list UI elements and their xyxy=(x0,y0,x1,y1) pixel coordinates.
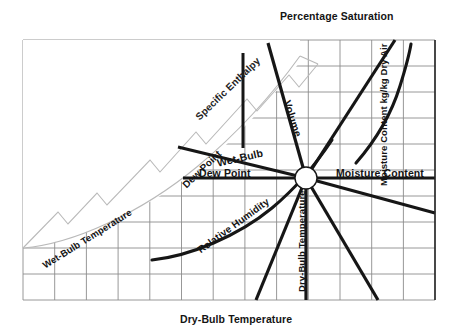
label-dry-bulb-temperature-vertical: Dry-Bulb Temperature xyxy=(297,190,307,292)
psychrometric-chart-figure: Percentage Saturation Moisture Content k… xyxy=(0,0,474,332)
chart-canvas xyxy=(0,0,474,332)
label-dry-bulb-axis: Dry-Bulb Temperature xyxy=(180,314,292,325)
hub-node xyxy=(295,167,317,189)
label-percentage-saturation: Percentage Saturation xyxy=(280,11,394,22)
label-dew-point: Dew Point xyxy=(199,168,251,179)
label-moisture-content-axis: Moisture Content kg/kg Dry Air xyxy=(379,43,389,186)
label-moisture-content: Moisture Content xyxy=(336,168,424,179)
